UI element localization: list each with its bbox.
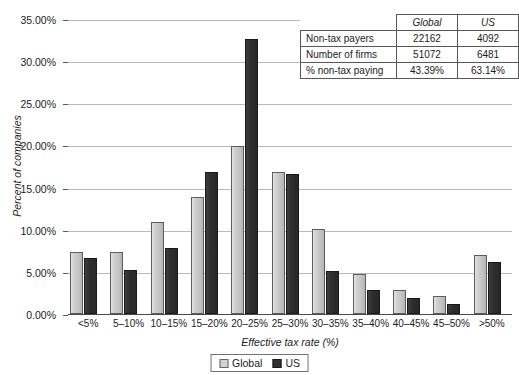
x-axis-tick-label: 20–25% [229, 318, 269, 330]
bar-us[interactable] [286, 174, 299, 314]
bar-us[interactable] [488, 262, 501, 314]
x-axis-tick-label: 40–45% [391, 318, 431, 330]
table-column-header: Global [397, 15, 458, 31]
bar-group [108, 19, 148, 314]
bar-global[interactable] [151, 222, 164, 314]
chart-legend: GlobalUS [210, 354, 309, 372]
table-row: Number of firms510726481 [301, 47, 519, 63]
legend-item-us[interactable]: US [272, 357, 300, 369]
legend-item-global[interactable]: Global [219, 357, 262, 369]
legend-swatch-us-icon [272, 359, 281, 368]
x-axis-tick-label: <5% [68, 318, 108, 330]
x-axis: <5%5–10%10–15%15–20%20–25%25–30%30–35%35… [68, 318, 512, 334]
table-cell-us: 4092 [458, 31, 519, 47]
y-axis-tick-label: 15.00% [0, 184, 56, 194]
x-axis-tick-label: >50% [472, 318, 512, 330]
table-row-label: % non-tax paying [301, 63, 397, 79]
bar-us[interactable] [124, 270, 137, 314]
table-row: Non-tax payers221624092 [301, 31, 519, 47]
y-axis-tick-label: 5.00% [0, 268, 56, 278]
bar-global[interactable] [272, 172, 285, 314]
bar-group [149, 19, 189, 314]
y-axis-tick-label: 25.00% [0, 99, 56, 109]
table-row-label: Non-tax payers [301, 31, 397, 47]
y-axis: 0.00%5.00%10.00%15.00%20.00%25.00%30.00%… [0, 0, 64, 375]
table-header-row: GlobalUS [301, 15, 519, 31]
y-axis-tick-label: 35.00% [0, 15, 56, 25]
x-axis-tick-label: 10–15% [149, 318, 189, 330]
y-axis-tick-label: 0.00% [0, 310, 56, 320]
legend-swatch-global-icon [219, 359, 228, 368]
bar-group [68, 19, 108, 314]
bar-global[interactable] [70, 252, 83, 314]
bar-global[interactable] [353, 274, 366, 314]
summary-table: GlobalUS Non-tax payers221624092Number o… [300, 14, 519, 79]
bar-us[interactable] [205, 172, 218, 314]
bar-us[interactable] [165, 248, 178, 314]
table-cell-us: 6481 [458, 47, 519, 63]
y-axis-tick-label: 10.00% [0, 226, 56, 236]
bar-us[interactable] [326, 271, 339, 314]
bar-global[interactable] [191, 197, 204, 314]
bar-us[interactable] [245, 39, 258, 314]
table-cell-us: 63.14% [458, 63, 519, 79]
bar-global[interactable] [433, 296, 446, 314]
bar-chart: Percent of companies 0.00%5.00%10.00%15.… [0, 0, 519, 375]
x-axis-tick-label: 15–20% [189, 318, 229, 330]
bar-us[interactable] [84, 258, 97, 314]
summary-table-body: Non-tax payers221624092Number of firms51… [301, 31, 519, 79]
x-axis-title: Effective tax rate (%) [68, 336, 512, 348]
bar-us[interactable] [367, 290, 380, 314]
table-row-label: Number of firms [301, 47, 397, 63]
y-axis-tick-mark [63, 315, 68, 316]
x-axis-tick-label: 25–30% [270, 318, 310, 330]
table-corner-cell [301, 15, 397, 31]
y-axis-tick-label: 30.00% [0, 57, 56, 67]
bar-global[interactable] [312, 229, 325, 314]
table-column-header: US [458, 15, 519, 31]
summary-table-head: GlobalUS [301, 15, 519, 31]
legend-label: US [285, 357, 300, 369]
table-cell-global: 51072 [397, 47, 458, 63]
table-cell-global: 22162 [397, 31, 458, 47]
x-axis-tick-label: 45–50% [431, 318, 471, 330]
bar-global[interactable] [110, 252, 123, 314]
bar-global[interactable] [393, 290, 406, 314]
legend-label: Global [232, 357, 262, 369]
table-cell-global: 43.39% [397, 63, 458, 79]
x-axis-tick-label: 5–10% [108, 318, 148, 330]
bar-global[interactable] [231, 146, 244, 314]
bar-group [229, 19, 269, 314]
table-row: % non-tax paying43.39%63.14% [301, 63, 519, 79]
bar-us[interactable] [447, 304, 460, 314]
x-axis-tick-label: 30–35% [310, 318, 350, 330]
bar-global[interactable] [474, 255, 487, 314]
x-axis-tick-label: 35–40% [351, 318, 391, 330]
bar-group [189, 19, 229, 314]
y-axis-tick-label: 20.00% [0, 141, 56, 151]
bar-us[interactable] [407, 298, 420, 314]
